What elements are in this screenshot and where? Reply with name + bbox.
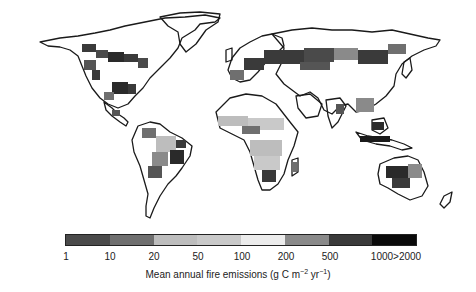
tick-label: 20 (148, 251, 159, 262)
emission-patches (82, 44, 422, 188)
world-map (0, 0, 476, 228)
colorbar-bin-1 (66, 235, 110, 245)
uk-outline (226, 48, 232, 62)
colorbar-bin-7 (329, 235, 373, 245)
tick-label: 1 (63, 251, 69, 262)
tick-label: 10 (104, 251, 115, 262)
title-main: Mean annual fire emissions (g C m (146, 269, 301, 280)
tick-label: 500 (322, 251, 339, 262)
title-mid: yr (308, 269, 319, 280)
colorbar-ticks: 1 10 20 50 100 200 500 1000>2000 (0, 251, 476, 265)
colorbar-bin-6 (285, 235, 329, 245)
colorbar-bin-3 (154, 235, 198, 245)
colorbar-bin-4 (197, 235, 241, 245)
colorbar-bin-8 (372, 235, 416, 245)
title-exponent-1: −2 (300, 268, 308, 275)
title-exponent-2: −1 (319, 268, 327, 275)
new-zealand-outline (440, 192, 452, 208)
japan-outline (402, 58, 412, 78)
tick-label: 100 (234, 251, 251, 262)
colorbar-bin-5 (241, 235, 285, 245)
colorbar-bin-2 (110, 235, 154, 245)
colorbar (65, 234, 417, 246)
title-end: ) (327, 269, 330, 280)
tick-label: 200 (278, 251, 295, 262)
tick-label: 1000>2000 (371, 251, 421, 262)
colorbar-title: Mean annual fire emissions (g C m−2 yr−1… (0, 268, 476, 280)
tick-label: 50 (192, 251, 203, 262)
coastlines (40, 12, 452, 218)
